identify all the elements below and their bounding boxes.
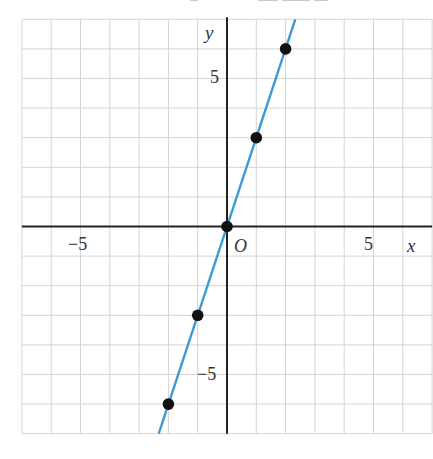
data-point (221, 221, 233, 233)
y-tick-label-neg5: −5 (197, 364, 216, 384)
data-point (163, 398, 175, 410)
origin-label: O (234, 236, 247, 256)
y-tick-label-5: 5 (210, 67, 219, 87)
coordinate-plane: y x O −5 5 5 −5 (0, 0, 433, 459)
y-axis-label: y (203, 22, 214, 43)
x-tick-label-5: 5 (364, 234, 373, 254)
x-tick-label-neg5: −5 (68, 234, 87, 254)
x-axis-label: x (406, 235, 416, 256)
axis-labels: y x O −5 5 5 −5 (68, 22, 416, 384)
data-point (250, 132, 262, 144)
data-point (280, 43, 292, 55)
data-point (192, 310, 204, 322)
